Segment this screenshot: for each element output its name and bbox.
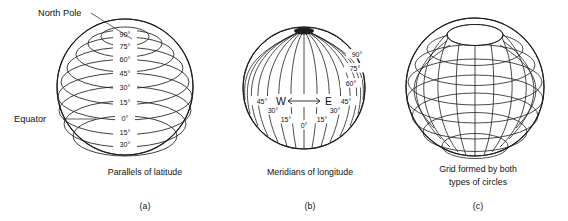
north-pole-label: North Pole [38, 8, 81, 18]
latitude-label-30s: 30° [120, 140, 131, 149]
caption-c-line1: Grid formed by both [439, 164, 517, 174]
polar-cap-fill-c [448, 25, 502, 45]
latitude-label-75: 75° [120, 42, 131, 51]
edge-label-60: 60° [346, 80, 357, 87]
panel-a-parallels: 90° 75° 60° 45° 30° 15° 0° 15° 30° North… [14, 8, 193, 156]
longitude-label-45w: 45° [257, 98, 268, 105]
panel-letter-c: (c) [473, 201, 483, 211]
longitude-label-30e: 30° [330, 107, 341, 114]
panel-letter-a: (a) [140, 201, 151, 211]
longitude-label-15e: 15° [317, 116, 328, 123]
north-pole-leader-line [91, 13, 132, 39]
longitude-label-0: 0° [301, 122, 308, 129]
edge-label-75: 75° [350, 65, 361, 72]
figure-svg: 90° 75° 60° 45° 30° 15° 0° 15° 30° North… [0, 0, 568, 221]
latitude-label-45: 45° [120, 69, 131, 78]
latitude-label-15s: 15° [120, 128, 131, 137]
globe-figure: 90° 75° 60° 45° 30° 15° 0° 15° 30° North… [0, 0, 568, 221]
panel-b-meridians: W E 45° 30° 15° 0° 15° 30° [243, 27, 368, 149]
longitude-label-30w: 30° [268, 107, 279, 114]
latitude-label-15n: 15° [120, 98, 131, 107]
latitude-label-30n: 30° [120, 83, 131, 92]
longitude-label-15w: 15° [281, 116, 292, 123]
panel-letter-b: (b) [305, 201, 316, 211]
latitude-label-60: 60° [120, 55, 131, 64]
equator-label: Equator [14, 114, 46, 124]
caption-c-line2: types of circles [449, 177, 508, 187]
captions: Parallels of latitude (a) Meridians of l… [108, 164, 517, 211]
caption-b-line1: Meridians of longitude [267, 167, 353, 177]
edge-label-90: 90° [352, 51, 363, 58]
latitude-labels-a: 90° 75° 60° 45° 30° 15° 0° 15° 30° [113, 29, 137, 149]
caption-a-line1: Parallels of latitude [108, 167, 182, 177]
longitude-label-45e: 45° [341, 98, 352, 105]
panel-c-grid [406, 18, 544, 159]
latitude-label-0: 0° [122, 114, 129, 123]
meridian-lines-b [245, 30, 364, 149]
pole-convergence-b [294, 28, 314, 35]
